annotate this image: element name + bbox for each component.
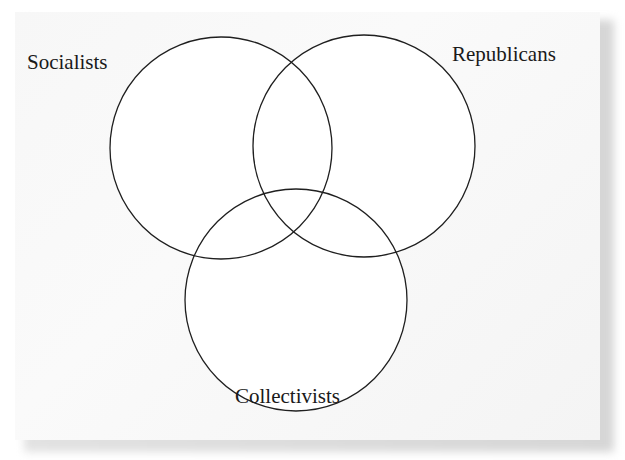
label-republicans: Republicans [452, 44, 556, 65]
label-socialists: Socialists [27, 52, 108, 73]
circle-collectivists-fill [185, 189, 407, 411]
label-collectivists: Collectivists [235, 386, 340, 407]
